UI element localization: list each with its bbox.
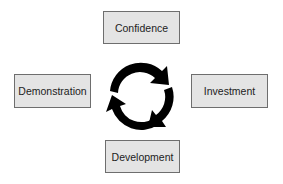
node-label: Confidence [115,22,168,34]
node-label: Demonstration [18,85,86,97]
circular-arrows-icon [104,57,178,135]
node-confidence: Confidence [103,11,180,44]
node-investment: Investment [191,74,268,108]
node-demonstration: Demonstration [14,74,91,108]
node-label: Development [112,151,174,163]
node-label: Investment [204,85,255,97]
node-development: Development [105,140,180,173]
